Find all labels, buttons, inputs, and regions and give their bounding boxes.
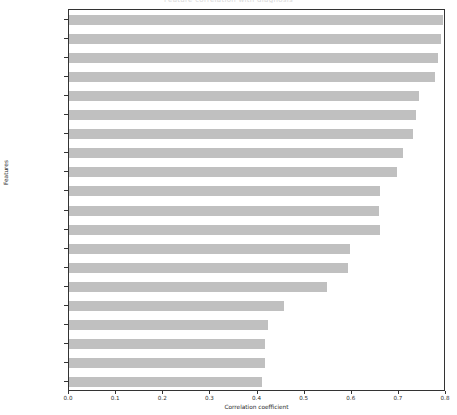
bar-concave-points-worst [69, 15, 443, 25]
x-tick-label-0.4: 0.4 [252, 395, 261, 401]
bar-fill [69, 320, 268, 330]
bar-compactness-worst [69, 263, 348, 273]
x-tick-mark [68, 391, 69, 394]
x-axis-label: Correlation coefficient [68, 404, 445, 410]
bar-symmetry-worst [69, 339, 265, 349]
x-tick-label-0.3: 0.3 [205, 395, 214, 401]
bar-radius-worst [69, 72, 435, 82]
bar-fill [69, 110, 416, 120]
bar-radius-se [69, 206, 379, 216]
x-axis-ticks: 0.00.10.20.30.40.50.60.70.8 [0, 391, 457, 415]
x-tick-label-0.8: 0.8 [441, 395, 450, 401]
x-tick-label-0.0: 0.0 [64, 395, 73, 401]
bar-fill [69, 244, 350, 254]
y-axis-label: Features [3, 160, 9, 185]
bar-fill [69, 358, 265, 368]
bar-fill [69, 225, 380, 235]
bar-perimeter-se [69, 186, 380, 196]
x-tick-mark [445, 391, 446, 394]
bar-smoothness-worst [69, 320, 268, 330]
bar-fill [69, 129, 413, 139]
bar-texture-worst [69, 301, 284, 311]
bar-compactness-mean [69, 244, 350, 254]
bar-area-se [69, 282, 327, 292]
bar-area-worst [69, 34, 441, 44]
x-tick-label-0.1: 0.1 [111, 395, 120, 401]
x-tick-label-0.5: 0.5 [299, 395, 308, 401]
bar-fill [69, 339, 265, 349]
chart-title: Feature correlation with diagnosis [0, 0, 457, 3]
bar-concave-points-mean [69, 110, 416, 120]
bar-fill [69, 53, 438, 63]
x-tick-mark [162, 391, 163, 394]
bar-series [69, 10, 444, 390]
bar-fill [69, 34, 441, 44]
bar-fill [69, 167, 397, 177]
bar-texture-mean [69, 358, 265, 368]
bar-area-mean [69, 148, 403, 158]
x-tick-mark [398, 391, 399, 394]
bar-fill [69, 301, 284, 311]
x-tick-label-0.2: 0.2 [158, 395, 167, 401]
bar-radius-mean [69, 129, 413, 139]
chart-figure: Feature correlation with diagnosis conca… [0, 0, 457, 415]
x-tick-mark [351, 391, 352, 394]
bar-fill [69, 282, 327, 292]
x-tick-label-0.6: 0.6 [346, 395, 355, 401]
bar-fill [69, 186, 380, 196]
plot-area [68, 9, 445, 391]
x-tick-mark [115, 391, 116, 394]
bar-concavity-se [69, 377, 262, 387]
x-tick-mark [257, 391, 258, 394]
bar-fill [69, 72, 435, 82]
bar-fill [69, 148, 403, 158]
bar-fill [69, 263, 348, 273]
x-tick-mark [209, 391, 210, 394]
bar-concavity-worst [69, 225, 380, 235]
x-tick-mark [304, 391, 305, 394]
bar-fill [69, 15, 443, 25]
bar-concavity-mean [69, 167, 397, 177]
x-tick-label-0.7: 0.7 [393, 395, 402, 401]
bar-perimeter-mean [69, 91, 419, 101]
bar-fill [69, 377, 262, 387]
bar-fill [69, 91, 419, 101]
bar-fill [69, 206, 379, 216]
bar-perimeter-worst [69, 53, 438, 63]
